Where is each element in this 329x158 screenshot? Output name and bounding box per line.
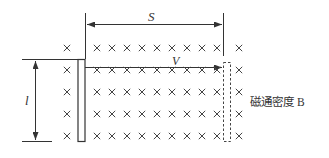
- field-cross-icon: [64, 89, 70, 95]
- field-cross-icon: [124, 133, 130, 139]
- magnetic-field-crosses: [64, 45, 242, 139]
- field-cross-icon: [214, 133, 220, 139]
- field-cross-icon: [199, 133, 205, 139]
- field-cross-icon: [169, 89, 175, 95]
- field-cross-icon: [214, 89, 220, 95]
- field-cross-icon: [139, 133, 145, 139]
- field-cross-icon: [236, 45, 242, 51]
- field-cross-icon: [236, 133, 242, 139]
- field-cross-icon: [184, 133, 190, 139]
- conductor-bar: [78, 60, 85, 142]
- field-cross-icon: [124, 89, 130, 95]
- field-cross-icon: [214, 111, 220, 117]
- field-cross-icon: [109, 111, 115, 117]
- field-cross-icon: [109, 45, 115, 51]
- field-cross-icon: [154, 111, 160, 117]
- field-cross-icon: [154, 45, 160, 51]
- field-cross-icon: [199, 111, 205, 117]
- field-cross-icon: [64, 67, 70, 73]
- field-cross-icon: [184, 45, 190, 51]
- field-cross-icon: [199, 45, 205, 51]
- field-cross-icon: [199, 89, 205, 95]
- field-cross-icon: [169, 45, 175, 51]
- velocity-label: V: [172, 54, 179, 69]
- field-cross-icon: [64, 111, 70, 117]
- field-cross-icon: [94, 111, 100, 117]
- length-dimension: [22, 60, 85, 142]
- field-cross-icon: [236, 67, 242, 73]
- conductor-final-position: [224, 63, 231, 142]
- field-cross-icon: [139, 89, 145, 95]
- length-label: l: [25, 93, 29, 109]
- field-cross-icon: [64, 133, 70, 139]
- field-cross-icon: [139, 111, 145, 117]
- field-cross-icon: [184, 111, 190, 117]
- field-cross-icon: [94, 133, 100, 139]
- diagram-canvas: S V l 磁通密度 B: [0, 0, 329, 158]
- field-cross-icon: [94, 89, 100, 95]
- distance-label: S: [148, 9, 155, 25]
- diagram-svg: [0, 0, 329, 158]
- field-cross-icon: [139, 45, 145, 51]
- field-cross-icon: [109, 89, 115, 95]
- field-cross-icon: [169, 133, 175, 139]
- field-cross-icon: [184, 89, 190, 95]
- field-cross-icon: [109, 133, 115, 139]
- field-cross-icon: [64, 45, 70, 51]
- field-cross-icon: [154, 89, 160, 95]
- field-cross-icon: [236, 111, 242, 117]
- field-cross-icon: [154, 133, 160, 139]
- field-cross-icon: [94, 45, 100, 51]
- magnetic-flux-density-label: 磁通密度 B: [250, 93, 305, 109]
- field-cross-icon: [214, 45, 220, 51]
- field-cross-icon: [124, 111, 130, 117]
- field-cross-icon: [236, 89, 242, 95]
- field-cross-icon: [169, 111, 175, 117]
- field-cross-icon: [124, 45, 130, 51]
